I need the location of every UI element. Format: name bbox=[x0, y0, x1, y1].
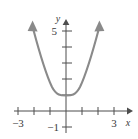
parabola-right-arrow-icon bbox=[94, 21, 104, 32]
y-tick-label-neg1: −1 bbox=[47, 121, 59, 133]
y-axis-ticks bbox=[62, 31, 72, 127]
x-axis-arrow-icon bbox=[127, 108, 133, 115]
x-axis-label: x bbox=[125, 117, 131, 128]
y-tick-label-5: 5 bbox=[52, 25, 58, 37]
y-axis-arrow-icon bbox=[63, 19, 70, 25]
x-tick-label-3: 3 bbox=[111, 117, 117, 129]
graph-figure: 5 −1 −3 3 x y bbox=[0, 0, 138, 139]
y-axis-label: y bbox=[55, 13, 61, 24]
parabola-plot: 5 −1 −3 3 x y bbox=[0, 0, 138, 139]
x-tick-label-neg3: −3 bbox=[12, 117, 24, 129]
parabola-left-arrow-icon bbox=[28, 21, 38, 32]
